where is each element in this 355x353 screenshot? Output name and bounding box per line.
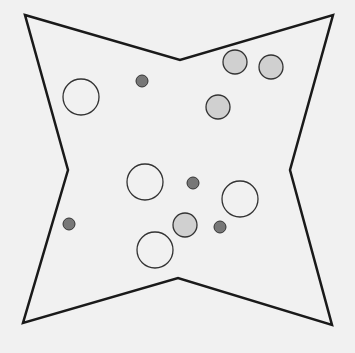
- star-shape: [23, 15, 333, 325]
- dark-gray-circle: [187, 177, 199, 189]
- light-gray-circle: [206, 95, 230, 119]
- light-gray-circle: [173, 213, 197, 237]
- large-empty-circle: [127, 164, 163, 200]
- dark-gray-circle: [214, 221, 226, 233]
- large-empty-circle: [63, 79, 99, 115]
- light-gray-circle: [259, 55, 283, 79]
- star-diagram: [0, 0, 355, 353]
- dark-gray-circle: [136, 75, 148, 87]
- large-empty-circle: [137, 232, 173, 268]
- dark-gray-circle: [63, 218, 75, 230]
- large-empty-circle: [222, 181, 258, 217]
- light-gray-circle: [223, 50, 247, 74]
- light-gray-circles: [173, 50, 283, 237]
- dark-gray-circles: [63, 75, 226, 233]
